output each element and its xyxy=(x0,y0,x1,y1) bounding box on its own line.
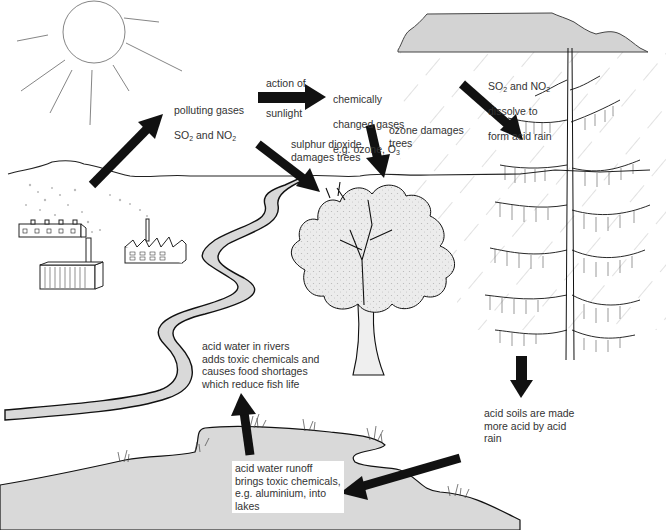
factory-icon xyxy=(19,219,186,289)
label-sunlight: sunlight xyxy=(266,107,302,120)
label-line: polluting gases xyxy=(174,104,244,117)
subscript: 2 xyxy=(232,135,236,142)
label-line: SO2 and NO2 xyxy=(174,129,244,142)
label-sulphur-damages: sulphur dioxide damages trees xyxy=(291,138,362,163)
label-line: form acid rain xyxy=(488,130,552,143)
label-action-of: action of xyxy=(266,77,306,90)
subscript: 3 xyxy=(396,149,400,156)
subscript: 2 xyxy=(546,86,550,93)
label-line: SO2 and NO2 xyxy=(488,80,552,93)
label-acid-runoff: acid water runoff brings toxic chemicals… xyxy=(232,461,344,513)
formula-part: and NO xyxy=(507,80,546,92)
rain-cloud-icon xyxy=(398,13,648,52)
label-polluting-gases: polluting gases SO2 and NO2 xyxy=(174,91,244,154)
label-acid-soils: acid soils are made more acid by acid ra… xyxy=(484,407,574,445)
formula-part: SO xyxy=(488,80,503,92)
arrow-soil xyxy=(510,356,533,398)
formula-part: SO xyxy=(174,129,189,141)
label-line: dissolve to xyxy=(488,105,552,118)
formula-part: and NO xyxy=(193,129,232,141)
label-acid-rivers: acid water in rivers adds toxic chemical… xyxy=(202,340,319,390)
arrow-emission xyxy=(92,114,163,185)
label-dissolve: SO2 and NO2 dissolve to form acid rain xyxy=(488,67,552,155)
sun-icon xyxy=(17,1,182,125)
label-ozone-damages: ozone damages trees xyxy=(389,124,464,149)
label-line: chemically xyxy=(333,93,404,106)
